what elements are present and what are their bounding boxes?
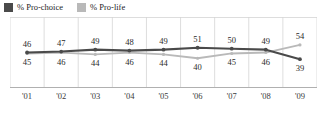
- data-label: 46: [125, 58, 134, 67]
- plot-svg: [10, 17, 317, 88]
- data-label: 51: [193, 35, 202, 44]
- data-label: 49: [159, 37, 168, 46]
- legend-item-pro-life: % Pro-life: [77, 3, 125, 12]
- data-label: 46: [262, 58, 271, 67]
- data-label: 46: [23, 40, 32, 49]
- data-label: 45: [227, 58, 236, 67]
- x-axis-tick: '03: [90, 92, 100, 101]
- data-label: 40: [193, 63, 202, 72]
- x-axis-tick: '06: [193, 92, 203, 101]
- data-label: 44: [91, 59, 100, 68]
- data-label: 39: [296, 64, 305, 73]
- x-axis-tick: '08: [261, 92, 271, 101]
- legend-item-pro-choice: % Pro-choice: [4, 3, 63, 12]
- x-axis-tick: '05: [158, 92, 168, 101]
- data-label: 49: [262, 37, 271, 46]
- data-label: 47: [57, 39, 66, 48]
- legend-label-pro-choice: % Pro-choice: [17, 3, 63, 12]
- data-label: 49: [91, 37, 100, 46]
- legend-label-pro-life: % Pro-life: [90, 3, 125, 12]
- data-label: 54: [296, 32, 305, 41]
- x-axis-tick: '02: [56, 92, 66, 101]
- data-label: 45: [23, 58, 32, 67]
- x-axis-tick: '01: [22, 92, 32, 101]
- data-label: 48: [125, 38, 134, 47]
- x-axis-tick: '09: [295, 92, 305, 101]
- chart-legend: % Pro-choice % Pro-life: [4, 1, 125, 14]
- plot-area: 464749484951504939454644464440454654: [10, 17, 317, 88]
- data-label: 50: [227, 36, 236, 45]
- x-axis-tick: '04: [124, 92, 134, 101]
- legend-swatch-pro-life-icon: [77, 3, 86, 12]
- data-label: 46: [57, 58, 66, 67]
- chart-container: % Pro-choice % Pro-life 4647494849515049…: [0, 0, 323, 114]
- legend-swatch-pro-choice-icon: [4, 3, 13, 12]
- x-axis: '01'02'03'04'05'06'07'08'09: [10, 90, 317, 104]
- x-axis-tick: '07: [227, 92, 237, 101]
- data-label: 44: [159, 59, 168, 68]
